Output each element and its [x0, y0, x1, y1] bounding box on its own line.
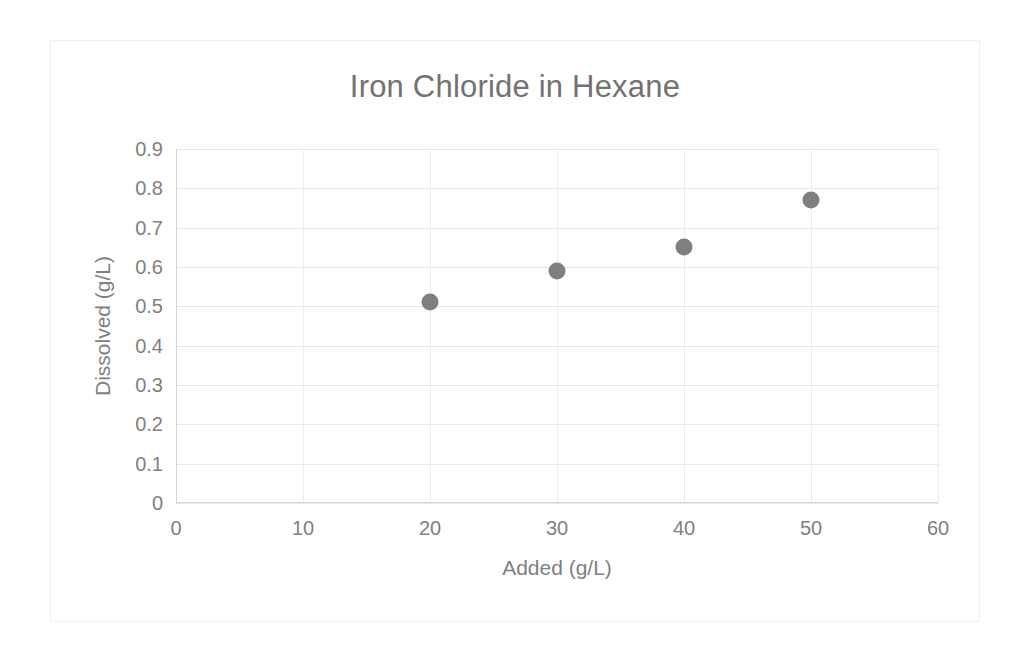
x-axis-title: Added (g/L)	[176, 556, 938, 580]
x-tick-label: 60	[927, 517, 949, 540]
y-tick-label: 0.1	[135, 452, 163, 475]
plot-area: 00.10.20.30.40.50.60.70.80.9 01020304050…	[176, 149, 938, 503]
x-tick-label: 10	[292, 517, 314, 540]
y-axis-line	[176, 149, 177, 503]
data-point[interactable]	[549, 262, 566, 279]
x-tick-label: 0	[170, 517, 181, 540]
gridline-horizontal	[176, 503, 938, 504]
gridline-vertical	[303, 149, 304, 503]
chart-frame: Iron Chloride in Hexane 00.10.20.30.40.5…	[50, 40, 980, 622]
y-tick-label: 0.5	[135, 295, 163, 318]
gridline-vertical	[557, 149, 558, 503]
gridline-vertical	[430, 149, 431, 503]
gridline-vertical	[684, 149, 685, 503]
gridline-vertical	[938, 149, 939, 503]
y-tick-label: 0.2	[135, 413, 163, 436]
data-point[interactable]	[803, 192, 820, 209]
x-tick-label: 30	[546, 517, 568, 540]
chart-title: Iron Chloride in Hexane	[51, 69, 979, 105]
data-point[interactable]	[676, 239, 693, 256]
y-tick-label: 0.4	[135, 334, 163, 357]
x-tick-label: 20	[419, 517, 441, 540]
x-tick-label: 50	[800, 517, 822, 540]
data-point[interactable]	[422, 294, 439, 311]
y-tick-label: 0.8	[135, 177, 163, 200]
y-axis-title: Dissolved (g/L)	[91, 256, 115, 396]
x-axis-line	[176, 502, 938, 503]
y-tick-label: 0.3	[135, 374, 163, 397]
y-tick-label: 0.6	[135, 256, 163, 279]
y-tick-label: 0.7	[135, 216, 163, 239]
y-tick-label: 0	[152, 492, 163, 515]
y-tick-label: 0.9	[135, 138, 163, 161]
x-tick-label: 40	[673, 517, 695, 540]
chart-page: Iron Chloride in Hexane 00.10.20.30.40.5…	[0, 0, 1034, 662]
